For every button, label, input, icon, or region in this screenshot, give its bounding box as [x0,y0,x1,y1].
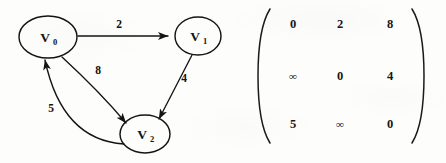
edge-v1-v2-line [159,55,192,119]
node-v0-label: V [40,30,50,45]
graph-node-v2[interactable]: V 2 [120,115,170,153]
node-v1-subscript: 1 [203,36,207,46]
edge-v0-v1-weight: 2 [116,18,122,30]
matrix-cell-0-0: 0 [290,17,296,31]
matrix-row: ∞ 0 4 [289,69,394,83]
matrix-cell-0-1: 2 [337,17,343,31]
node-v0-subscript: 0 [53,37,57,47]
node-v2-subscript: 2 [150,134,154,144]
node-v1-label: V [190,29,200,44]
edge-v0-v2-line [62,57,126,123]
edge-v0-v2-weight: 8 [95,64,101,76]
matrix-cell-2-1: ∞ [336,118,344,130]
graph-node-v1[interactable]: V 1 [175,17,221,55]
matrix-cell-1-1: 0 [337,69,343,83]
edge-v2-v0: 5 [45,60,124,144]
matrix-cell-2-0: 5 [290,117,296,131]
graph-diagram: 2 4 8 5 V 0 [0,0,240,163]
matrix-cell-1-0: ∞ [289,70,297,82]
matrix-row: 0 2 8 [290,17,393,31]
node-v2-label: V [137,127,147,142]
edge-v2-v0-line [45,60,124,144]
matrix-left-bracket [258,9,270,143]
figure-page: 2 4 8 5 V 0 [0,0,446,163]
matrix-cell-1-2: 4 [387,69,394,83]
adjacency-matrix: 0 2 8 ∞ 0 4 5 ∞ 0 [240,0,446,163]
matrix-right-bracket [412,9,424,143]
edge-v2-v0-weight: 5 [48,102,54,114]
edge-v0-v1: 2 [78,18,168,36]
matrix-cell-0-2: 8 [387,17,393,31]
matrix-cell-2-2: 0 [387,117,393,131]
edge-v0-v2: 8 [62,57,126,123]
edge-v1-v2: 4 [159,55,192,119]
matrix-row: 5 ∞ 0 [290,117,393,131]
graph-node-v0[interactable]: V 0 [19,16,77,58]
edge-v1-v2-weight: 4 [181,72,187,84]
